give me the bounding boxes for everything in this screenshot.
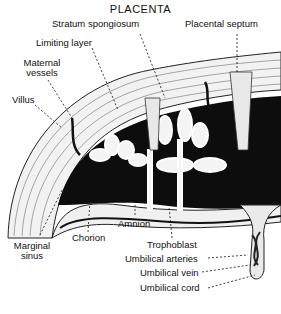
label-limiting-layer: Limiting layer [36, 38, 92, 48]
label-maternal-vessels: Maternal vessels [22, 58, 62, 78]
label-chorion: Chorion [72, 233, 105, 243]
diagram-title: PLACENTA [0, 3, 281, 15]
label-villus: Villus [12, 95, 35, 105]
label-umbilical-vein: Umbilical vein [140, 268, 199, 278]
label-stratum-spongiosum: Stratum spongiosum [52, 19, 139, 29]
label-umbilical-arteries: Umbilical arteries [125, 254, 198, 264]
label-placental-septum: Placental septum [185, 19, 258, 29]
label-amnion: Amnion [118, 219, 150, 229]
label-umbilical-cord: Umbilical cord [140, 283, 200, 293]
label-marginal-sinus: Marginal sinus [10, 241, 54, 261]
label-trophoblast: Trophoblast [147, 240, 197, 250]
